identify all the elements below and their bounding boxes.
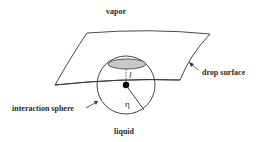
- liquid-label: liquid: [114, 128, 134, 136]
- drop-surface-label: drop surface: [202, 69, 245, 77]
- interaction-sphere-label: interaction sphere: [12, 105, 74, 113]
- drop-surface-sheet: [55, 31, 210, 85]
- particle-dot: [123, 82, 129, 88]
- sphere-cap: [108, 59, 146, 69]
- vapor-label: vapor: [106, 8, 126, 16]
- interaction-sphere-arrow: [86, 103, 95, 108]
- eta-symbol: η: [125, 100, 130, 109]
- drop-surface-diagram: vapor drop surface interaction sphere li…: [0, 0, 263, 142]
- distance-symbol: l: [129, 71, 132, 80]
